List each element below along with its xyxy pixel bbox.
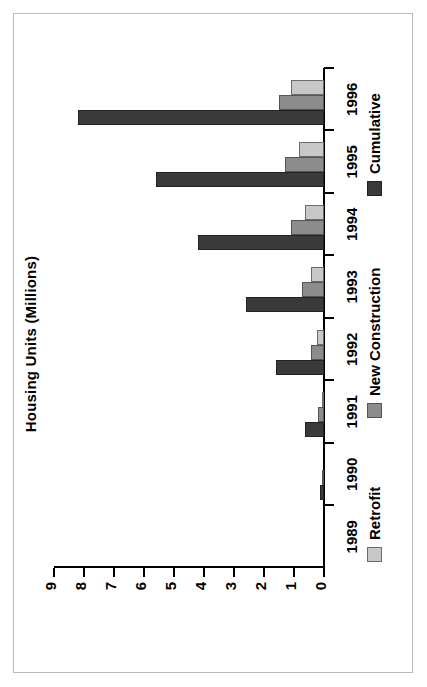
value-tick-label: 3 xyxy=(222,582,239,590)
bar-new-construction-1996 xyxy=(279,94,324,109)
bar-retrofit-1991 xyxy=(321,392,323,407)
bar-chart: Housing Units (Millions) 0123456789 1989… xyxy=(14,24,414,664)
category-tick xyxy=(324,442,334,444)
bar-cumulative-1994 xyxy=(198,234,324,249)
bar-cumulative-1992 xyxy=(276,359,324,374)
value-tick: 6 xyxy=(143,568,145,577)
value-tick: 8 xyxy=(83,568,85,577)
value-tick: 7 xyxy=(113,568,115,577)
category-label-1995: 1995 xyxy=(343,145,360,178)
legend-swatch-icon xyxy=(367,403,382,418)
bar-cumulative-1993 xyxy=(246,297,324,312)
bar-new-construction-1993 xyxy=(301,282,324,297)
bar-retrofit-1996 xyxy=(291,79,324,94)
value-tick: 0 xyxy=(323,568,325,577)
value-tick: 5 xyxy=(173,568,175,577)
legend-item-retrofit[interactable]: Retrofit xyxy=(366,486,383,561)
rotated-chart-wrapper: Housing Units (Millions) 0123456789 1989… xyxy=(0,0,427,687)
value-axis-line xyxy=(54,566,324,568)
bar-cumulative-1991 xyxy=(304,422,324,437)
legend-swatch-icon xyxy=(367,181,382,196)
legend-item-new-construction[interactable]: New Construction xyxy=(366,267,383,417)
bar-retrofit-1994 xyxy=(305,204,324,219)
value-tick: 1 xyxy=(293,568,295,577)
category-label-1996: 1996 xyxy=(343,82,360,115)
category-label-1989: 1989 xyxy=(343,520,360,553)
value-tick-label: 7 xyxy=(102,582,119,590)
category-label-1992: 1992 xyxy=(343,332,360,365)
bar-new-construction-1992 xyxy=(311,344,324,359)
value-tick-label: 8 xyxy=(72,582,89,590)
category-label-1991: 1991 xyxy=(343,395,360,428)
legend-swatch-icon xyxy=(367,547,382,562)
value-tick-label: 9 xyxy=(42,582,59,590)
value-tick: 4 xyxy=(203,568,205,577)
category-tick xyxy=(324,504,334,506)
value-tick-label: 1 xyxy=(282,582,299,590)
category-label-1994: 1994 xyxy=(343,207,360,240)
legend-item-cumulative[interactable]: Cumulative xyxy=(366,93,383,196)
category-tick xyxy=(324,67,334,69)
plot-area: 0123456789 19891990199119921993199419951… xyxy=(54,68,324,568)
value-tick: 3 xyxy=(233,568,235,577)
value-tick: 2 xyxy=(263,568,265,577)
category-label-1990: 1990 xyxy=(343,457,360,490)
chart-title: Housing Units (Millions) xyxy=(22,24,39,664)
value-tick: 9 xyxy=(53,568,55,577)
value-tick-label: 0 xyxy=(312,582,329,590)
bar-new-construction-1990 xyxy=(322,469,324,484)
bar-retrofit-1995 xyxy=(298,142,324,157)
bar-retrofit-1992 xyxy=(317,329,324,344)
category-label-1993: 1993 xyxy=(343,270,360,303)
bar-retrofit-1993 xyxy=(311,267,324,282)
category-tick xyxy=(324,379,334,381)
value-tick-label: 2 xyxy=(252,582,269,590)
bar-cumulative-1995 xyxy=(156,172,324,187)
legend-label: Retrofit xyxy=(366,486,383,539)
category-tick xyxy=(324,192,334,194)
legend-label: Cumulative xyxy=(366,93,383,174)
value-tick-label: 4 xyxy=(192,582,209,590)
bar-new-construction-1995 xyxy=(285,157,324,172)
legend-label: New Construction xyxy=(366,267,383,395)
bar-new-construction-1994 xyxy=(291,219,324,234)
value-tick-label: 5 xyxy=(162,582,179,590)
category-tick xyxy=(324,254,334,256)
bar-cumulative-1990 xyxy=(320,484,324,499)
bar-new-construction-1991 xyxy=(318,407,324,422)
bar-cumulative-1996 xyxy=(78,109,324,124)
category-tick xyxy=(324,129,334,131)
category-tick xyxy=(324,317,334,319)
chart-legend: RetrofitNew ConstructionCumulative xyxy=(366,68,394,568)
value-tick-label: 6 xyxy=(132,582,149,590)
